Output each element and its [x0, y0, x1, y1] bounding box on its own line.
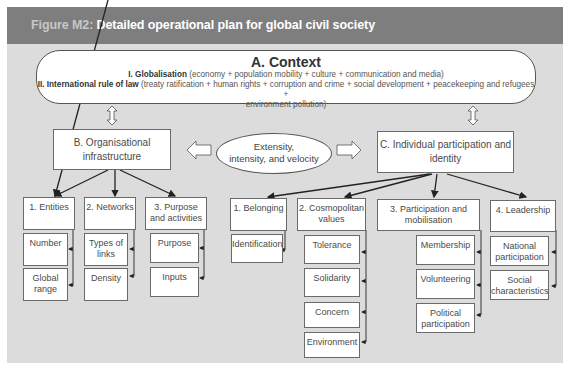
participation-mobilisation-box: 3. Participation and mobilisation	[377, 199, 480, 231]
identification-label: Identification	[232, 239, 283, 249]
rule-of-law-label: II. International rule of law	[38, 80, 139, 89]
individual-participation-box: C. Individual participation and identity	[377, 131, 514, 173]
networks-label: 2. Networks	[86, 202, 134, 212]
density-label: Density	[91, 273, 121, 283]
cosmopolitan-values-box: 2. Cosmopolitan values	[297, 198, 366, 231]
context-box: A. Context I. Globalisation (economy + p…	[36, 50, 536, 104]
b-title-line2: infrastructure	[54, 150, 170, 164]
leadership-label: 4. Leadership	[496, 205, 551, 215]
extensity-ellipse: Extensity, intensity, and velocity	[216, 133, 332, 174]
ellipse-line1: Extensity,	[217, 141, 331, 153]
belonging-box: 1. Belonging	[230, 198, 287, 231]
globalisation-label: I. Globalisation	[128, 70, 187, 79]
environment-label: Environment	[307, 337, 358, 347]
purpose-activities-label: 3. Purpose and activities	[150, 202, 202, 223]
purpose-label: Purpose	[158, 238, 192, 248]
types-of-links-label: Types of links	[89, 238, 123, 259]
tolerance-box: Tolerance	[304, 235, 360, 264]
concern-label: Concern	[315, 307, 349, 317]
political-participation-label: Political participation	[421, 308, 470, 329]
national-participation-label: National participation	[495, 241, 544, 262]
number-box: Number	[23, 233, 68, 266]
social-characteristics-label: Social characteristics	[491, 275, 549, 296]
c-title-line2: identity	[378, 152, 513, 166]
rule-of-law-detail: (treaty ratification + human rights + co…	[139, 80, 535, 99]
membership-box: Membership	[416, 235, 475, 265]
entities-label: 1. Entities	[29, 202, 69, 212]
volunteering-label: Volunteering	[420, 274, 470, 284]
global-range-box: Global range	[23, 268, 68, 301]
global-range-label: Global range	[32, 273, 58, 294]
context-globalisation: I. Globalisation (economy + population m…	[37, 70, 535, 80]
context-title: A. Context	[37, 54, 535, 70]
solidarity-box: Solidarity	[304, 268, 360, 297]
inputs-box: Inputs	[150, 267, 199, 297]
cosmopolitan-values-label: 2. Cosmopolitan values	[299, 203, 364, 224]
social-characteristics-box: Social characteristics	[490, 270, 549, 300]
tolerance-label: Tolerance	[312, 240, 351, 250]
inputs-label: Inputs	[162, 272, 187, 282]
purpose-activities-box: 3. Purpose and activities	[145, 197, 207, 230]
membership-label: Membership	[421, 240, 471, 250]
types-of-links-box: Types of links	[84, 233, 128, 266]
purpose-box: Purpose	[150, 233, 199, 263]
globalisation-detail: (economy + population mobility + culture…	[187, 70, 444, 79]
solidarity-label: Solidarity	[313, 273, 350, 283]
ellipse-line2: intensity, and velocity	[217, 153, 331, 165]
c-title-line1: C. Individual participation and	[378, 138, 513, 152]
volunteering-box: Volunteering	[416, 269, 475, 299]
context-line-3: environment pollution)	[37, 100, 535, 110]
leadership-box: 4. Leadership	[490, 200, 556, 232]
concern-box: Concern	[304, 302, 360, 328]
number-label: Number	[29, 238, 61, 248]
context-rule-of-law: II. International rule of law (treaty ra…	[37, 80, 535, 100]
identification-box: Identification	[231, 234, 283, 263]
political-participation-box: Political participation	[416, 303, 475, 333]
national-participation-box: National participation	[490, 236, 549, 266]
participation-mobilisation-label: 3. Participation and mobilisation	[390, 204, 467, 225]
organisational-infrastructure-box: B. Organisational infrastructure	[53, 129, 171, 170]
networks-box: 2. Networks	[84, 197, 136, 230]
b-title-line1: B. Organisational	[54, 136, 170, 150]
density-box: Density	[84, 268, 128, 301]
environment-box: Environment	[304, 332, 360, 358]
belonging-label: 1. Belonging	[233, 203, 283, 213]
entities-box: 1. Entities	[23, 197, 75, 230]
